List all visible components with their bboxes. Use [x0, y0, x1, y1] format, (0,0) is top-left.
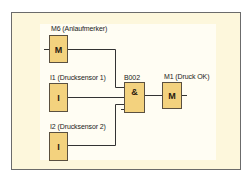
b002-and-block[interactable]: &: [124, 82, 145, 113]
m1-label: M1 (Druck OK): [164, 73, 209, 80]
i1-input-block[interactable]: I: [49, 83, 68, 112]
i2-label: I2 (Drucksensor 2): [50, 123, 106, 130]
i2-input-block[interactable]: I: [49, 132, 68, 161]
and-symbol: &: [131, 87, 138, 97]
i1-label: I1 (Drucksensor 1): [50, 74, 106, 81]
m1-symbol: M: [168, 91, 176, 101]
m1-flag-block[interactable]: M: [162, 82, 182, 109]
i2-symbol: I: [57, 142, 60, 152]
wire-m6-to-b002: [67, 50, 124, 88]
b002-label: B002: [124, 74, 140, 81]
m6-label: M6 (Anlaufmerker): [51, 25, 107, 32]
m6-symbol: M: [55, 45, 63, 55]
i1-symbol: I: [57, 93, 60, 103]
m6-flag-block[interactable]: M: [49, 35, 68, 63]
